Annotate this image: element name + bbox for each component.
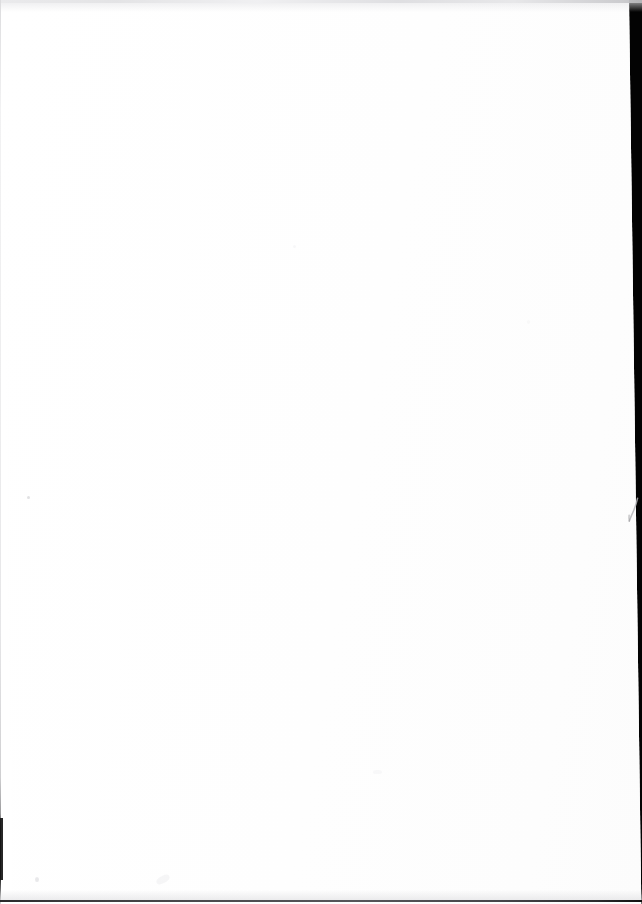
scanned-page — [0, 0, 642, 904]
dust-speck — [35, 877, 39, 882]
page-edge-bottom-haze — [0, 890, 642, 900]
page-edge-left-dark-segment — [0, 818, 3, 880]
page-edge-top-haze — [0, 3, 642, 12]
page-edge-left — [0, 0, 1, 904]
dust-speck — [293, 245, 296, 248]
paper-tone — [0, 0, 641, 904]
page-edge-bottom — [0, 900, 642, 902]
dust-speck — [527, 320, 530, 324]
dust-speck — [373, 770, 382, 774]
dust-speck — [27, 496, 30, 499]
paper-sheet — [0, 0, 641, 904]
